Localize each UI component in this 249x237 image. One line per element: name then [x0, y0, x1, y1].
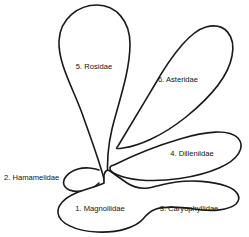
- diagram-canvas: 5. Rosidae 6. Asteridae 4. Dilleniidae 2…: [0, 0, 249, 237]
- lobe-label-hamamelidae: 2. Hamamelidae: [4, 173, 59, 182]
- lobe-label-magnoliidae: 1. Magnoliidae: [75, 204, 124, 213]
- lobe-label-asteridae: 6. Asteridae: [158, 75, 198, 84]
- lobe-label-dilleniidae: 4. Dilleniidae: [170, 149, 213, 158]
- lobe-label-rosidae: 5. Rosidae: [76, 62, 112, 71]
- lobe-label-caryophyllidae: 3. Caryophyllidae: [160, 204, 219, 213]
- taxonomy-diagram: 5. Rosidae 6. Asteridae 4. Dilleniidae 2…: [0, 0, 249, 237]
